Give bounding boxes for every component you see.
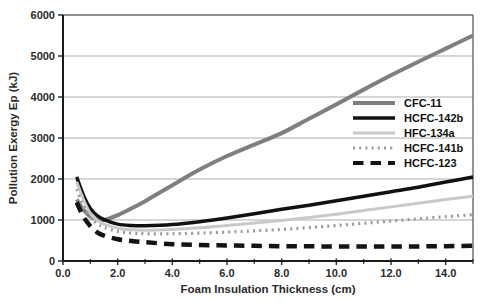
series-HCFC-142b [77,177,473,226]
y-tick-label: 2000 [31,173,55,185]
x-tick-label: 6.0 [219,267,234,279]
y-tick-label: 0 [49,255,55,267]
x-tick-label: 12.0 [380,267,401,279]
legend-line-sample [352,128,396,138]
x-tick-label: 4.0 [165,267,180,279]
y-tick-label: 5000 [31,50,55,62]
y-axis-title: Pollution Exergy Ep (kJ) [7,72,19,204]
legend-line-sample [352,113,396,123]
y-tick-label: 6000 [31,9,55,21]
x-tick-label: 10.0 [326,267,347,279]
legend: CFC-11HCFC-142bHFC-134aHCFC-141bHCFC-123 [352,95,463,170]
legend-item-CFC-11: CFC-11 [352,95,463,110]
x-tick-label: 14.0 [435,267,456,279]
legend-line-sample [352,143,396,153]
legend-label: HFC-134a [404,127,455,139]
y-tick-label: 3000 [31,132,55,144]
legend-item-HCFC-142b: HCFC-142b [352,110,463,125]
legend-label: HCFC-123 [404,157,457,169]
legend-line-sample [352,158,396,168]
x-axis-title: Foam Insulation Thickness (cm) [180,283,355,295]
legend-label: HCFC-142b [404,112,463,124]
x-tick-label: 8.0 [274,267,289,279]
legend-line-sample [352,98,396,108]
legend-label: CFC-11 [404,97,442,109]
exergy-line-chart: Pollution Exergy Ep (kJ) Foam Insulation… [0,0,485,307]
legend-label: HCFC-141b [404,142,463,154]
x-tick-label: 0.0 [55,267,70,279]
x-tick-label: 2.0 [110,267,125,279]
legend-item-HFC-134a: HFC-134a [352,125,463,140]
legend-item-HCFC-123: HCFC-123 [352,155,463,170]
legend-item-HCFC-141b: HCFC-141b [352,140,463,155]
y-tick-label: 4000 [31,91,55,103]
y-tick-label: 1000 [31,214,55,226]
